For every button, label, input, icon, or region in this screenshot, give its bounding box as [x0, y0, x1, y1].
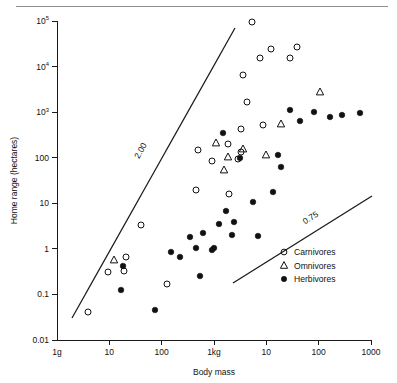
data-point-herbivores	[278, 164, 284, 170]
data-point-carnivores	[249, 19, 255, 25]
y-axis-tick-label: 1	[44, 244, 49, 254]
top-divider-rule	[16, 6, 388, 7]
data-point-herbivores	[275, 152, 281, 158]
axis-frame	[57, 21, 371, 340]
data-point-herbivores	[287, 107, 293, 113]
data-point-herbivores	[200, 230, 206, 236]
data-point-carnivores	[164, 281, 170, 287]
data-point-herbivores	[216, 221, 222, 227]
data-point-omnivores	[277, 120, 284, 127]
data-point-carnivores	[195, 147, 201, 153]
data-point-herbivores	[211, 245, 217, 251]
data-point-herbivores	[220, 130, 226, 136]
data-point-carnivores	[138, 222, 144, 228]
scatter-plot: 0.010.11101001031041051g101001kg10100100…	[0, 0, 397, 383]
x-axis-tick-label: 1000	[362, 347, 381, 357]
data-point-carnivores	[240, 72, 246, 78]
slope-annotation-0-75: 0.75	[301, 209, 321, 226]
x-axis-tick-label: 100	[312, 347, 326, 357]
y-axis-tick-label: 0.1	[37, 289, 49, 299]
data-point-carnivores	[193, 187, 199, 193]
data-point-herbivores	[231, 219, 237, 225]
data-point-carnivores	[105, 269, 111, 275]
x-axis-title: Body mass	[193, 367, 235, 377]
data-point-herbivores	[193, 245, 199, 251]
y-axis-tick-label: 10	[40, 198, 50, 208]
legend-label: Herbivores	[294, 274, 336, 284]
slope-annotation-2-00: 2.00	[132, 141, 149, 161]
chart-legend: CarnivoresOmnivoresHerbivores	[280, 247, 335, 284]
legend-item-herbivores[interactable]: Herbivores	[281, 274, 335, 284]
data-point-omnivores	[212, 139, 219, 146]
series-omnivores	[110, 88, 323, 263]
data-point-herbivores	[197, 273, 203, 279]
data-point-omnivores	[262, 151, 269, 158]
data-point-carnivores	[260, 122, 266, 128]
data-point-carnivores	[287, 55, 293, 61]
data-point-herbivores	[187, 234, 193, 240]
y-axis-tick-label: 105	[36, 15, 49, 26]
y-axis-tick-label: 104	[36, 61, 49, 72]
data-point-herbivores	[237, 155, 243, 161]
data-point-omnivores	[224, 153, 231, 160]
data-point-herbivores	[357, 110, 363, 116]
data-point-herbivores	[168, 249, 174, 255]
data-point-carnivores	[257, 55, 263, 61]
data-point-herbivores	[229, 232, 235, 238]
data-point-carnivores	[225, 141, 231, 147]
y-axis-title: Home range (hectares)	[9, 137, 19, 225]
y-axis-tick-label: 103	[36, 107, 49, 118]
legend-marker-herbivores	[281, 276, 286, 281]
data-point-herbivores	[250, 199, 256, 205]
data-point-carnivores	[123, 254, 129, 260]
data-point-herbivores	[223, 208, 229, 214]
data-point-herbivores	[270, 189, 276, 195]
data-point-herbivores	[255, 233, 261, 239]
data-point-carnivores	[209, 158, 215, 164]
data-point-omnivores	[239, 145, 246, 152]
data-point-herbivores	[311, 109, 317, 115]
data-point-carnivores	[238, 126, 244, 132]
y-axis-tick-label: 100	[35, 153, 49, 163]
x-axis-tick-label: 10	[262, 347, 272, 357]
data-point-omnivores	[110, 256, 117, 263]
x-axis-tick-label: 10	[105, 347, 115, 357]
data-point-herbivores	[339, 112, 345, 118]
legend-marker-omnivores	[280, 262, 287, 269]
data-point-carnivores	[268, 46, 274, 52]
legend-item-omnivores[interactable]: Omnivores	[280, 261, 335, 271]
data-point-herbivores	[152, 307, 158, 313]
data-point-herbivores	[120, 263, 126, 269]
x-axis-tick-label: 1g	[52, 347, 62, 357]
legend-label: Carnivores	[294, 247, 336, 257]
data-point-herbivores	[118, 287, 124, 293]
data-point-carnivores	[294, 44, 300, 50]
data-point-herbivores	[327, 114, 333, 120]
data-point-omnivores	[316, 88, 323, 95]
data-point-herbivores	[177, 254, 183, 260]
steep-regression-line	[72, 28, 235, 318]
tick-labels-layer: 0.010.11101001031041051g101001kg10100100…	[32, 15, 380, 357]
figure-container: 0.010.11101001031041051g101001kg10100100…	[0, 0, 397, 383]
data-point-carnivores	[85, 309, 91, 315]
data-point-omnivores	[220, 166, 227, 173]
data-point-carnivores	[226, 191, 232, 197]
data-point-carnivores	[244, 99, 250, 105]
data-points-layer	[85, 19, 363, 315]
data-point-herbivores	[297, 118, 303, 124]
series-carnivores	[85, 19, 300, 315]
legend-label: Omnivores	[294, 261, 336, 271]
x-axis-tick-label: 100	[155, 347, 169, 357]
y-axis-tick-label: 0.01	[32, 335, 49, 345]
x-axis-tick-label: 1kg	[207, 347, 221, 357]
